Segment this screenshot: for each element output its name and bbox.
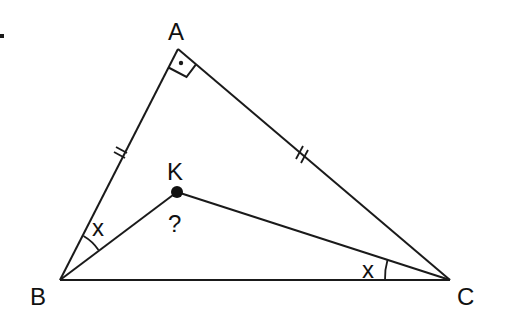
label-c: C — [457, 283, 474, 310]
side-ab — [60, 49, 178, 280]
right-angle-dot — [179, 61, 183, 65]
point-k — [171, 186, 183, 198]
label-k: K — [167, 158, 183, 185]
label-a: A — [168, 18, 184, 45]
label-b: B — [30, 283, 46, 310]
right-angle-marker — [169, 64, 197, 77]
angle-arc-c — [385, 260, 388, 280]
segment-kc — [177, 192, 450, 280]
unknown-angle-label: ? — [168, 210, 181, 237]
tick-marks-ab — [114, 147, 127, 158]
angle-label-b: x — [92, 214, 104, 241]
angle-label-c: x — [362, 256, 374, 283]
segment-bk — [60, 192, 177, 280]
geometry-diagram: A B C K x x ? — [0, 0, 505, 324]
side-ac — [178, 49, 450, 280]
stray-dot — [0, 34, 4, 38]
